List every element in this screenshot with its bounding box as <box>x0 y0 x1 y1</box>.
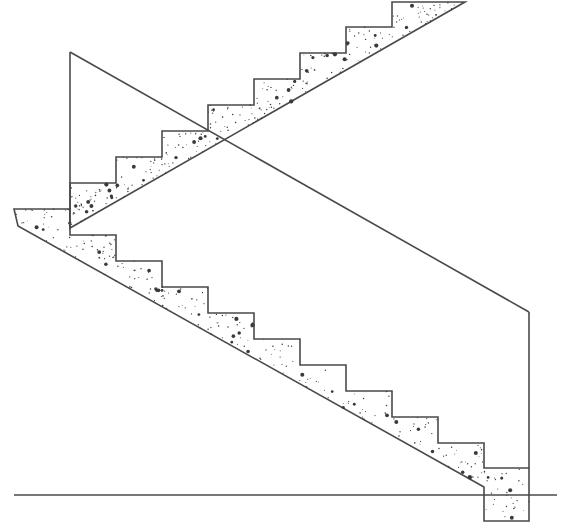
staircase-section-diagram <box>0 0 570 532</box>
upper-flight-concrete <box>70 2 465 228</box>
lower-flight-concrete <box>14 209 529 521</box>
